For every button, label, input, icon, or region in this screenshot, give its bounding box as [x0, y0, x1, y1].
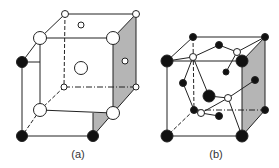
panel-a-label: (a): [71, 148, 84, 160]
crystal-structure-diagram: [0, 0, 279, 168]
panel-b-label: (b): [209, 148, 222, 160]
